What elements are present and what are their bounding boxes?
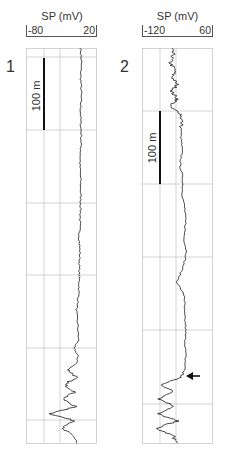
panel-2-sp-trace	[157, 48, 187, 443]
sp-log-figure: 100 m 100 m	[0, 0, 225, 455]
panel-2-grid	[142, 48, 213, 444]
panel-2-scale-label: 100 m	[146, 133, 158, 164]
panel-1-sp-trace	[49, 48, 82, 443]
arrow-left-icon	[186, 372, 200, 380]
panel-1-scale-label: 100 m	[30, 81, 42, 112]
